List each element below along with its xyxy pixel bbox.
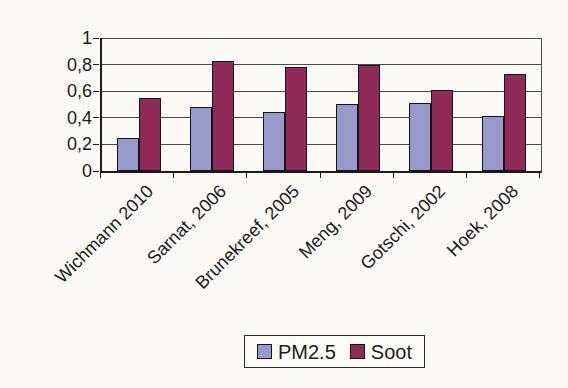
y-tick (93, 64, 99, 65)
bar-pm25-6 (482, 116, 504, 171)
y-tick-label: 0,4 (40, 107, 92, 129)
bar-soot-4 (358, 65, 380, 171)
gridline-y-0.2 (102, 144, 541, 145)
gridline-y-0.4 (102, 117, 541, 118)
legend-label-soot: Soot (371, 342, 412, 362)
legend-swatch-pm25-icon (257, 344, 272, 359)
gridline-y-1 (102, 38, 541, 39)
x-tick (173, 172, 174, 178)
bar-soot-6 (504, 74, 526, 171)
plot-area (100, 38, 542, 173)
bar-pm25-1 (117, 138, 139, 171)
y-tick-label: 0,6 (40, 80, 92, 102)
y-tick-label: 0,2 (40, 133, 92, 155)
y-tick (93, 117, 99, 118)
legend-swatch-soot-icon (350, 344, 365, 359)
y-tick (93, 171, 99, 172)
x-category-label: Hoek, 2008 (443, 181, 523, 261)
bar-pm25-3 (263, 112, 285, 171)
y-tick-label: 0,8 (40, 54, 92, 76)
bar-soot-1 (139, 98, 161, 171)
x-category-label: Wichmann 2010 (51, 181, 158, 288)
bar-soot-2 (212, 61, 234, 171)
gridline-y-0.6 (102, 91, 541, 92)
y-tick (93, 38, 99, 39)
y-tick (93, 91, 99, 92)
y-tick-label: 1 (40, 27, 92, 49)
legend: PM2.5 Soot (244, 335, 425, 368)
x-tick (246, 172, 247, 178)
gridline-y-0.8 (102, 64, 541, 65)
y-tick (93, 144, 99, 145)
bar-soot-5 (431, 90, 453, 171)
x-tick (539, 172, 540, 178)
x-tick (320, 172, 321, 178)
bar-pm25-2 (190, 107, 212, 171)
x-tick (100, 172, 101, 178)
x-tick (393, 172, 394, 178)
bar-pm25-5 (409, 103, 431, 171)
chart-figure: 00,20,40,60,81 Wichmann 2010Sarnat, 2006… (0, 0, 568, 388)
bar-pm25-4 (336, 104, 358, 171)
x-tick (466, 172, 467, 178)
bar-soot-3 (285, 67, 307, 171)
legend-label-pm25: PM2.5 (278, 342, 336, 362)
y-tick-label: 0 (40, 160, 92, 182)
